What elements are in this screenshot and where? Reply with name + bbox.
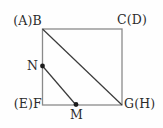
- geometry-diagram: (A)B C(D) N (E)F M G(H): [0, 0, 163, 128]
- segment-line-N-to-M: [43, 66, 77, 105]
- diagonal-line-B-to-G: [43, 29, 123, 105]
- vertex-label-top-right: C(D): [117, 13, 147, 27]
- point-dot-N: [40, 64, 45, 69]
- vertex-label-top-left: (A)B: [8, 14, 42, 28]
- vertex-label-bottom-right: G(H): [124, 97, 155, 111]
- point-label-N: N: [27, 59, 38, 73]
- point-label-M: M: [70, 108, 83, 122]
- vertex-label-bottom-left: (E)F: [8, 97, 42, 111]
